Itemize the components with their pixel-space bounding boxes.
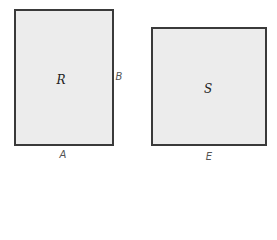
square-s-side-e-label: E (206, 152, 212, 162)
rectangle-r-label: R (56, 74, 65, 86)
square-s-label: S (204, 83, 212, 95)
rectangle-r-side-b-label: B (116, 72, 123, 82)
rectangle-r-side-a-label: A (60, 150, 67, 160)
